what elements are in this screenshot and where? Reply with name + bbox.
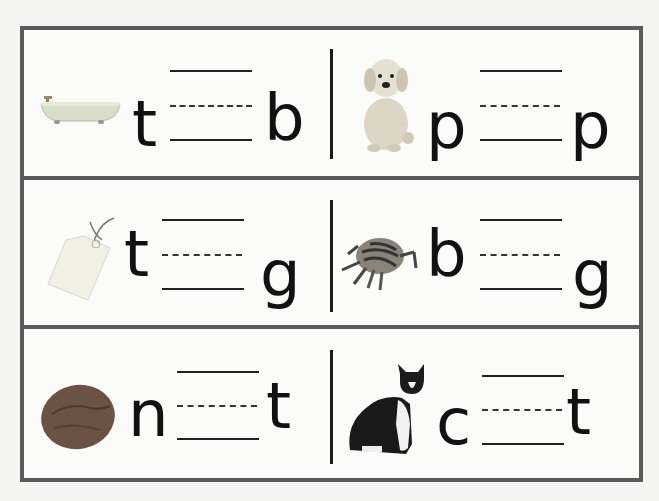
nut-picture [40, 384, 116, 450]
last-letter: g [572, 242, 613, 306]
first-letter: p [426, 94, 467, 158]
answer-line[interactable] [162, 288, 244, 290]
row-divider [24, 176, 639, 180]
last-letter: t [266, 374, 291, 438]
first-letter: b [426, 222, 467, 286]
answer-line[interactable] [480, 139, 562, 141]
top-writing-line [480, 219, 562, 221]
worksheet-frame: t b p p t g b g n t c t [20, 26, 643, 482]
bug-picture [340, 226, 420, 292]
answer-line[interactable] [177, 438, 259, 440]
first-letter: t [132, 92, 157, 156]
answer-line[interactable] [170, 139, 252, 141]
top-writing-line [177, 371, 259, 373]
dashed-mid-line [177, 405, 257, 407]
column-divider [330, 200, 333, 312]
top-writing-line [162, 219, 244, 221]
last-letter: b [264, 86, 305, 150]
answer-line[interactable] [480, 288, 562, 290]
dashed-mid-line [480, 254, 560, 256]
first-letter: n [128, 382, 169, 446]
dashed-mid-line [480, 105, 560, 107]
tag-picture [44, 214, 124, 300]
cat-picture [346, 364, 430, 454]
first-letter: c [436, 390, 471, 454]
puppy-picture [358, 54, 414, 154]
column-divider [330, 350, 333, 464]
top-writing-line [480, 70, 562, 72]
dashed-mid-line [170, 105, 252, 107]
bathtub-picture [40, 96, 122, 126]
top-writing-line [170, 70, 252, 72]
last-letter: g [260, 242, 301, 306]
first-letter: t [124, 222, 149, 286]
column-divider [330, 49, 333, 159]
row-divider [24, 325, 639, 329]
last-letter: p [570, 94, 611, 158]
top-writing-line [482, 375, 564, 377]
dashed-mid-line [162, 254, 242, 256]
last-letter: t [566, 380, 591, 444]
answer-line[interactable] [482, 443, 564, 445]
dashed-mid-line [482, 409, 562, 411]
